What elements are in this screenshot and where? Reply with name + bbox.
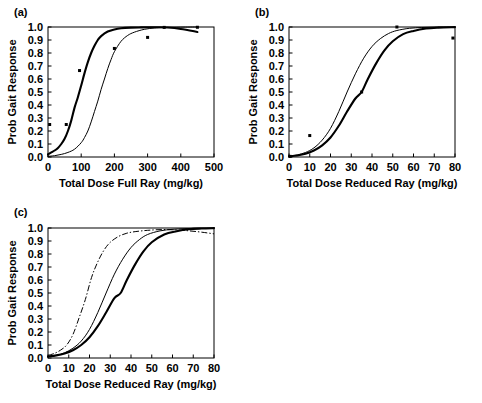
x-tick-label: 0 — [45, 362, 51, 374]
panel-b: (b) 0.00.10.20.30.40.50.60.70.80.91.0010… — [241, 0, 482, 200]
x-axis-title: Total Dose Full Ray (mg/kg) — [59, 177, 203, 189]
y-axis-title: Prob Gait Response — [247, 39, 259, 144]
data-point — [360, 91, 363, 94]
y-tick-label: 0.0 — [28, 352, 43, 364]
x-tick-label: 40 — [366, 161, 378, 173]
data-point — [196, 26, 199, 29]
y-tick-label: 0.5 — [28, 86, 43, 98]
plot-frame — [48, 27, 214, 157]
y-tick-label: 0.9 — [28, 235, 43, 247]
data-point — [163, 26, 166, 29]
x-axis-title: Total Dose Reduced Ray (mg/kg) — [46, 378, 217, 390]
x-tick-label: 200 — [105, 161, 123, 173]
x-tick-label: 10 — [63, 362, 75, 374]
x-tick-label: 400 — [172, 161, 190, 173]
series-curve-0 — [48, 230, 214, 356]
y-tick-label: 0.3 — [28, 112, 43, 124]
data-point — [78, 69, 81, 72]
x-tick-label: 40 — [125, 362, 137, 374]
figure-container: (a) 0.00.10.20.30.40.50.60.70.80.91.0010… — [0, 0, 482, 403]
data-point — [65, 123, 68, 126]
y-tick-label: 0.1 — [28, 339, 43, 351]
series-curve-1 — [48, 27, 197, 156]
data-point — [308, 134, 311, 137]
panel-a: (a) 0.00.10.20.30.40.50.60.70.80.91.0010… — [0, 0, 241, 200]
y-tick-label: 0.0 — [269, 151, 284, 163]
panel-c-label: (c) — [14, 206, 27, 218]
y-tick-label: 0.3 — [269, 112, 284, 124]
y-tick-label: 1.0 — [28, 222, 43, 234]
x-axis-title: Total Dose Reduced Ray (mg/kg) — [287, 177, 458, 189]
y-tick-label: 1.0 — [269, 21, 284, 33]
data-point — [451, 37, 454, 40]
x-tick-label: 80 — [208, 362, 220, 374]
x-tick-label: 0 — [286, 161, 292, 173]
panel-b-label: (b) — [255, 6, 269, 18]
x-tick-label: 20 — [83, 362, 95, 374]
series-curve-1 — [48, 228, 214, 356]
x-tick-label: 80 — [449, 161, 461, 173]
panel-c: (c) 0.00.10.20.30.40.50.60.70.80.91.0010… — [0, 200, 241, 403]
x-tick-label: 300 — [138, 161, 156, 173]
y-tick-label: 0.1 — [269, 138, 284, 150]
x-tick-label: 20 — [324, 161, 336, 173]
y-tick-label: 0.4 — [269, 99, 285, 111]
x-tick-label: 30 — [104, 362, 116, 374]
y-tick-label: 0.5 — [269, 86, 284, 98]
y-tick-label: 0.6 — [269, 73, 284, 85]
panel-a-label: (a) — [14, 6, 27, 18]
y-tick-label: 0.8 — [269, 47, 284, 59]
y-tick-label: 0.4 — [28, 99, 44, 111]
y-tick-label: 0.2 — [28, 326, 43, 338]
x-tick-label: 100 — [72, 161, 90, 173]
y-tick-label: 0.8 — [28, 248, 43, 260]
data-point — [395, 26, 398, 29]
x-tick-label: 30 — [345, 161, 357, 173]
y-tick-label: 0.1 — [28, 138, 43, 150]
y-tick-label: 0.2 — [28, 125, 43, 137]
y-tick-label: 0.6 — [28, 73, 43, 85]
x-tick-label: 60 — [407, 161, 419, 173]
y-tick-label: 0.3 — [28, 313, 43, 325]
y-tick-label: 0.0 — [28, 151, 43, 163]
x-tick-label: 70 — [187, 362, 199, 374]
y-tick-label: 0.5 — [28, 287, 43, 299]
x-tick-label: 50 — [387, 161, 399, 173]
data-point — [48, 123, 51, 126]
x-tick-label: 60 — [166, 362, 178, 374]
y-axis-title: Prob Gait Response — [6, 240, 18, 345]
panel-c-plot: 0.00.10.20.30.40.50.60.70.80.91.00102030… — [0, 200, 241, 403]
y-tick-label: 0.2 — [269, 125, 284, 137]
y-axis-title: Prob Gait Response — [6, 39, 18, 144]
y-tick-label: 0.7 — [269, 60, 284, 72]
x-tick-label: 10 — [304, 161, 316, 173]
x-tick-label: 50 — [146, 362, 158, 374]
panel-a-plot: 0.00.10.20.30.40.50.60.70.80.91.00100200… — [0, 0, 241, 200]
y-tick-label: 0.9 — [269, 34, 284, 46]
x-tick-label: 0 — [45, 161, 51, 173]
data-point — [113, 47, 116, 50]
y-tick-label: 0.4 — [28, 300, 44, 312]
x-tick-label: 500 — [205, 161, 223, 173]
panel-b-plot: 0.00.10.20.30.40.50.60.70.80.91.00102030… — [241, 0, 482, 200]
y-tick-label: 0.9 — [28, 34, 43, 46]
y-tick-label: 0.8 — [28, 47, 43, 59]
x-tick-label: 70 — [428, 161, 440, 173]
y-tick-label: 0.7 — [28, 60, 43, 72]
y-tick-label: 0.7 — [28, 261, 43, 273]
series-curve-1 — [289, 27, 455, 156]
y-tick-label: 0.6 — [28, 274, 43, 286]
y-tick-label: 1.0 — [28, 21, 43, 33]
data-point — [289, 155, 292, 158]
data-point — [146, 36, 149, 39]
series-curve-0 — [48, 27, 197, 154]
